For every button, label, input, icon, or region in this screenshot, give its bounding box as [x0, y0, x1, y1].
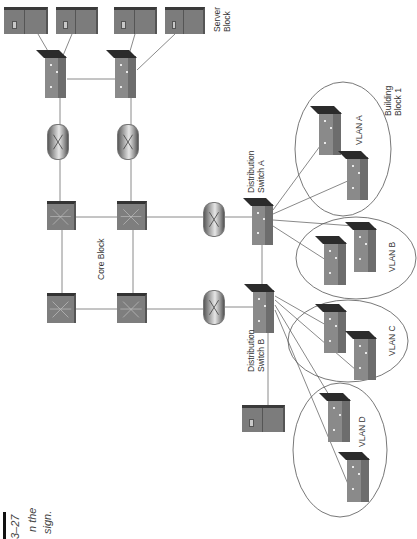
vlan-d-switch-2 — [347, 458, 369, 502]
vlan-c-switch-2 — [354, 337, 376, 380]
core-switch-2 — [117, 201, 147, 230]
distribution-switch-a — [252, 204, 273, 245]
building-block-label: Building Block 1 — [383, 86, 403, 116]
server-1 — [4, 7, 48, 34]
caption-line-2: n the — [26, 508, 38, 532]
vlan-b-switch-2 — [354, 228, 376, 272]
core-switch-4 — [117, 293, 147, 323]
caption-figure-number: 3–27 — [9, 515, 21, 539]
distribution-switch-b-label: Distribution Switch B — [246, 329, 266, 372]
caption-line-3: sign. — [41, 511, 53, 534]
server-block-label: Server Block — [212, 7, 232, 32]
server-distribution-b — [242, 405, 285, 432]
vlan-c-label: VLAN C — [387, 325, 397, 356]
vlan-a-label: VLAN A — [354, 115, 364, 145]
router-server-1 — [47, 124, 69, 160]
vlan-b-label: VLAN B — [387, 242, 397, 272]
vlan-d-switch-1 — [328, 399, 350, 442]
server-3 — [114, 7, 157, 34]
server-2 — [56, 7, 98, 34]
core-block-label: Core Block — [96, 238, 106, 280]
distribution-switch-a-label: Distribution Switch A — [246, 150, 266, 193]
router-dist-a — [203, 202, 225, 237]
vlan-a-switch-1 — [319, 112, 341, 155]
vlan-b-switch-1 — [324, 242, 346, 285]
server-switch-2 — [115, 56, 136, 98]
server-switch-1 — [45, 56, 66, 98]
core-switch-1 — [47, 201, 76, 230]
core-switch-3 — [47, 293, 76, 323]
vlan-c-switch-1 — [324, 310, 346, 353]
router-server-2 — [117, 124, 139, 160]
vlan-d-label: VLAN D — [357, 416, 367, 447]
distribution-switch-b — [253, 290, 274, 333]
router-dist-b — [203, 290, 225, 325]
vlan-a-ellipse — [295, 82, 391, 216]
network-diagram: Server Block Core Block Distri — [0, 0, 417, 539]
vlan-a-switch-2 — [347, 157, 368, 200]
server-4 — [165, 7, 205, 34]
caption-bar — [3, 512, 6, 539]
